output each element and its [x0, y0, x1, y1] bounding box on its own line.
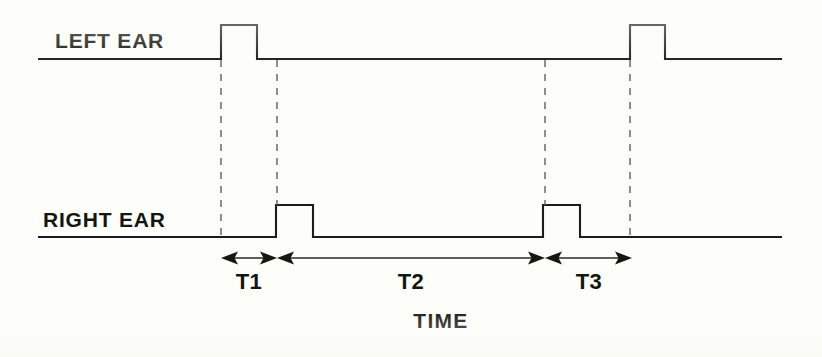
left-ear-label: LEFT EAR	[55, 29, 164, 52]
interval-dimensions: T1T2T3	[221, 252, 632, 295]
timing-diagram-canvas: LEFT EAR RIGHT EAR T1T2T3 TIME	[0, 0, 822, 357]
interval-t3: T3	[545, 252, 632, 295]
interval-label-t2: T2	[398, 269, 425, 294]
left-ear-channel: LEFT EAR	[38, 25, 782, 59]
interval-t1: T1	[221, 252, 277, 295]
right-ear-label: RIGHT EAR	[43, 208, 166, 231]
time-axis-label: TIME	[413, 309, 468, 332]
interval-t2: T2	[277, 252, 545, 295]
guide-lines	[221, 60, 630, 237]
right-ear-channel: RIGHT EAR	[38, 205, 782, 237]
timing-diagram-figure: LEFT EAR RIGHT EAR T1T2T3 TIME	[0, 0, 822, 357]
interval-label-t1: T1	[236, 269, 263, 294]
interval-label-t3: T3	[576, 269, 603, 294]
